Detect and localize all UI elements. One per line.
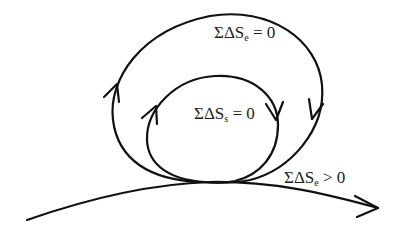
outer-loop-label-subscript: e	[244, 32, 248, 43]
outer-loop-label-prefix: ΣΔS	[214, 23, 244, 42]
inner-loop-label: ΣΔSs = 0	[194, 105, 255, 124]
outer-loop-up-arrowhead-icon	[104, 84, 119, 102]
base-path-label: ΣΔSe > 0	[284, 169, 345, 188]
inner-loop-curve	[147, 76, 278, 183]
outer-loop-label-relation: = 0	[253, 23, 275, 42]
inner-loop-label-relation: = 0	[232, 104, 254, 123]
base-path-label-relation: > 0	[323, 168, 345, 187]
base-path-arrowhead-icon	[355, 196, 378, 217]
base-path-label-subscript: e	[314, 177, 318, 188]
inner-loop-label-subscript: s	[224, 113, 228, 124]
diagram-canvas: ΣΔSe = 0 ΣΔSs = 0 ΣΔSe > 0	[0, 0, 394, 235]
outer-loop-label: ΣΔSe = 0	[214, 24, 275, 43]
base-path-label-prefix: ΣΔS	[284, 168, 314, 187]
inner-loop-label-prefix: ΣΔS	[194, 104, 224, 123]
